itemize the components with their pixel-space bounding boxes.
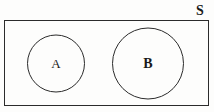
set-b-label: B: [143, 57, 152, 71]
set-a-label: A: [51, 57, 60, 70]
universal-set-label: S: [196, 4, 204, 18]
venn-diagram-figure: S A B: [0, 0, 214, 112]
venn-diagram-canvas: [0, 0, 214, 112]
universal-set-rectangle: [5, 21, 209, 106]
